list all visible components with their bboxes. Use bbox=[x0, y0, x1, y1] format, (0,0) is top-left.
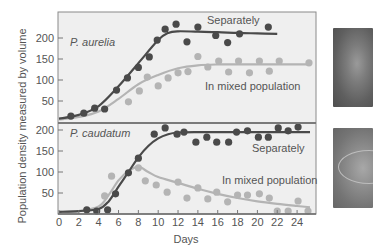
top-in-mixed-population-point bbox=[215, 58, 222, 65]
top-separately-annotation: Separately bbox=[207, 14, 260, 26]
top-in-mixed-population-point bbox=[266, 68, 273, 75]
top-separately-point bbox=[80, 110, 87, 117]
bottom-separately-point bbox=[162, 124, 169, 131]
top-in-mixed-population-point bbox=[194, 53, 201, 60]
bottom-in-mixed-population-point bbox=[183, 194, 190, 201]
top-separately-point bbox=[183, 38, 190, 45]
top-in-mixed-population-point bbox=[256, 58, 263, 65]
bottom-in-mixed-population-point bbox=[266, 194, 273, 201]
top-separately-point bbox=[124, 74, 131, 81]
bottom-panel-label: P. caudatum bbox=[70, 127, 130, 139]
x-tick-label: 2 bbox=[76, 216, 82, 228]
x-tick-label: 24 bbox=[291, 216, 303, 228]
bottom-in-mixed-population-point bbox=[244, 192, 251, 199]
bottom-separately-point bbox=[151, 131, 158, 138]
top-panel-label: P. aurelia bbox=[70, 36, 115, 48]
bottom-in-mixed-population-point bbox=[108, 173, 115, 180]
x-tick-label: 14 bbox=[192, 216, 204, 228]
x-tick-label: 20 bbox=[251, 216, 263, 228]
x-tick-label: 4 bbox=[96, 216, 102, 228]
top-in-mixed-population-point bbox=[184, 68, 191, 75]
top-in-mixed-population-point bbox=[235, 58, 242, 65]
bottom-in-mixed-population-point bbox=[234, 192, 241, 199]
top-y-tick-label: 150 bbox=[36, 53, 54, 65]
top-mixed-annotation: In mixed population bbox=[205, 80, 300, 92]
bottom-separately-point bbox=[203, 134, 210, 141]
top-y-tick-label: 200 bbox=[36, 32, 54, 44]
bottom-separately-point bbox=[275, 124, 282, 131]
bottom-separately-point bbox=[225, 139, 232, 146]
bottom-in-mixed-population-point bbox=[164, 189, 171, 196]
top-separately-point bbox=[194, 23, 201, 30]
bottom-in-mixed-population-point bbox=[256, 190, 263, 197]
top-separately-point bbox=[172, 21, 179, 28]
p-aurelia-photo bbox=[333, 28, 373, 107]
bottom-y-tick-label: 50 bbox=[42, 187, 54, 199]
top-separately-point bbox=[154, 37, 161, 44]
bottom-separately-point bbox=[173, 131, 180, 138]
bottom-in-mixed-population-point bbox=[204, 195, 211, 202]
x-tick-label: 22 bbox=[271, 216, 283, 228]
top-in-mixed-population-point bbox=[225, 68, 232, 75]
top-separately-point bbox=[67, 113, 74, 120]
bottom-in-mixed-population-point bbox=[101, 192, 108, 199]
top-separately-point bbox=[224, 39, 231, 46]
bottom-separately-point bbox=[233, 129, 240, 136]
x-tick-label: 12 bbox=[172, 216, 184, 228]
bottom-separately-point bbox=[244, 127, 251, 134]
bottom-in-mixed-population-point bbox=[174, 178, 181, 185]
bottom-separately-point bbox=[180, 129, 187, 136]
bottom-separately-point bbox=[192, 139, 199, 146]
top-in-mixed-population-point bbox=[174, 69, 181, 76]
top-separately-point bbox=[265, 23, 272, 30]
x-tick-label: 16 bbox=[212, 216, 224, 228]
x-tick-label: 10 bbox=[152, 216, 164, 228]
bottom-separately-point bbox=[112, 190, 119, 197]
x-tick-label: 6 bbox=[115, 216, 121, 228]
top-y-tick-label: 50 bbox=[42, 95, 54, 107]
x-tick-label: 8 bbox=[135, 216, 141, 228]
bottom-separately-point bbox=[265, 134, 272, 141]
top-separately-point bbox=[135, 64, 142, 71]
bottom-in-mixed-population-point bbox=[153, 181, 160, 188]
bottom-separately-point bbox=[294, 123, 301, 130]
top-in-mixed-population-point bbox=[246, 69, 253, 76]
bottom-y-tick-label: 100 bbox=[36, 166, 54, 178]
top-separately-point bbox=[113, 86, 120, 93]
top-separately-point bbox=[212, 32, 219, 39]
bottom-separately-point bbox=[285, 127, 292, 134]
bottom-separately-point bbox=[135, 155, 142, 162]
top-in-mixed-population-point bbox=[204, 63, 211, 70]
x-axis-title: Days bbox=[173, 233, 199, 245]
top-in-mixed-population-point bbox=[155, 82, 162, 89]
top-y-tick-label: 100 bbox=[36, 74, 54, 86]
bottom-separately-point bbox=[255, 134, 262, 141]
top-in-mixed-population-point bbox=[144, 73, 151, 80]
bottom-in-mixed-population-point bbox=[224, 198, 231, 205]
bottom-mixed-annotation: In mixed population bbox=[222, 174, 317, 186]
top-in-mixed-population-point bbox=[276, 58, 283, 65]
bottom-separately-point bbox=[83, 206, 90, 213]
x-tick-label: 0 bbox=[56, 216, 62, 228]
bottom-separately-point bbox=[104, 206, 111, 213]
top-separately-point bbox=[91, 105, 98, 112]
bottom-in-mixed-population-point bbox=[294, 197, 301, 204]
x-tick-label: 18 bbox=[231, 216, 243, 228]
bottom-y-tick-label: 200 bbox=[36, 124, 54, 136]
y-axis-title: Population density measured by volume bbox=[16, 28, 28, 223]
bottom-in-mixed-population-point bbox=[135, 164, 142, 171]
top-in-mixed-population-point bbox=[125, 98, 132, 105]
top-in-mixed-population-point bbox=[136, 87, 143, 94]
bottom-in-mixed-population-point bbox=[194, 184, 201, 191]
top-separately-point bbox=[236, 30, 243, 37]
top-separately-point bbox=[101, 105, 108, 112]
bottom-in-mixed-population-point bbox=[213, 189, 220, 196]
bottom-in-mixed-population-point bbox=[142, 177, 149, 184]
top-separately-point bbox=[146, 53, 153, 60]
bottom-separately-point bbox=[213, 139, 220, 146]
top-in-mixed-population-point bbox=[305, 59, 312, 66]
top-separately-point bbox=[162, 26, 169, 33]
bottom-separately-annotation: Separately bbox=[252, 142, 305, 154]
bottom-separately-point bbox=[125, 169, 132, 176]
